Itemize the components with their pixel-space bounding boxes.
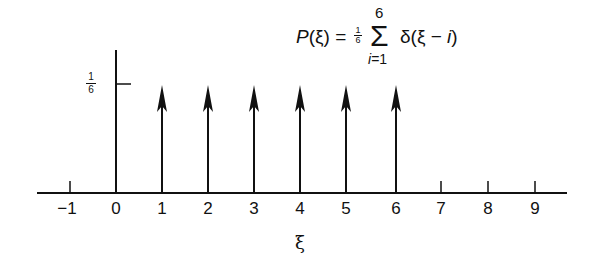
x-tick-label: 7 (426, 199, 456, 219)
impulse-arrow-4 (295, 85, 305, 193)
impulse-arrow-1 (157, 85, 167, 193)
x-tick-label: 5 (331, 199, 361, 219)
x-tick-label: 4 (285, 199, 315, 219)
x-tick-label: 9 (520, 199, 550, 219)
impulse-arrows (157, 85, 401, 193)
impulse-arrow-5 (341, 85, 351, 193)
formula-lhs: P(ξ) = (296, 26, 346, 48)
formula: P(ξ) = 16 6 Σ i=1 δ(ξ − i) (296, 4, 536, 68)
impulse-arrow-3 (249, 85, 259, 193)
x-tick-label: 8 (473, 199, 503, 219)
x-tick-label: −1 (52, 199, 82, 219)
formula-rhs: δ(ξ − i) (400, 26, 458, 48)
impulse-arrow-2 (203, 85, 213, 193)
x-tick-label: 6 (381, 199, 411, 219)
x-axis-label: ξ (290, 232, 310, 253)
x-ticks (70, 181, 535, 193)
x-tick-label: 2 (193, 199, 223, 219)
formula-coefficient: 16 (354, 26, 362, 45)
y-tick-label: 1 6 (86, 72, 96, 95)
x-tick-label: 1 (147, 199, 177, 219)
impulse-arrow-6 (391, 85, 401, 193)
x-tick-label: 0 (101, 199, 131, 219)
x-tick-label: 3 (239, 199, 269, 219)
sum-symbol: Σ (370, 21, 389, 51)
sum-lower-limit: i=1 (368, 51, 387, 67)
